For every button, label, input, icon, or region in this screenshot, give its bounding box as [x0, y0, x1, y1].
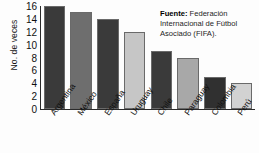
y-tick-label: 8 [31, 54, 37, 64]
source-note: Fuente: Federación Internacional de Fútb… [160, 9, 256, 40]
bar-chart: No. de veces 1614121086420 ArgentinaMéxi… [0, 0, 259, 153]
y-tick-label: 10 [26, 41, 37, 51]
y-tick-label: 6 [31, 66, 37, 76]
x-axis-tick-labels: ArgentinaMéxicoEspañaUruguayChileParagua… [40, 110, 259, 153]
y-axis-tick-labels: 1614121086420 [17, 6, 37, 110]
y-tick-label: 12 [26, 28, 37, 38]
y-tick-label: 0 [31, 105, 37, 115]
y-tick-label: 16 [26, 2, 37, 12]
y-tick-label: 2 [31, 92, 37, 102]
y-tick-label: 14 [26, 15, 37, 25]
source-note-label: Fuente: [160, 9, 187, 18]
y-tick-label: 4 [31, 79, 37, 89]
